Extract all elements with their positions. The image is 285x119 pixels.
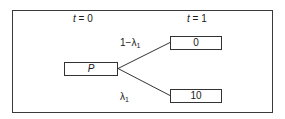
- node-down-label: 10: [190, 90, 201, 101]
- node-up-value: 0: [170, 36, 222, 50]
- prob-base: 1−λ: [120, 37, 136, 48]
- node-up-label: 0: [193, 37, 199, 48]
- node-root-label: P: [88, 63, 95, 74]
- edge-label-down-prob: λ1: [120, 91, 129, 106]
- tree-edges: [0, 0, 285, 119]
- prob-subscript: 1: [125, 96, 129, 103]
- node-root-P: P: [64, 62, 118, 76]
- edge-label-up-prob: 1−λ1: [120, 37, 140, 52]
- prob-subscript: 1: [136, 42, 140, 49]
- node-down-value: 10: [170, 89, 222, 103]
